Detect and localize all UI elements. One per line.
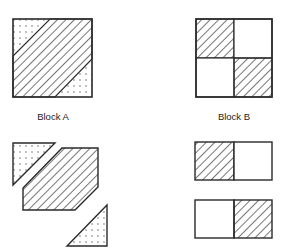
block-a-label: Block A — [37, 111, 69, 122]
block-b-label: Block B — [218, 111, 250, 122]
block-b-cell-bottom-left-plain — [196, 58, 234, 97]
block-b-piece-bottom-strip — [195, 200, 272, 238]
block-b-assembled — [196, 19, 272, 97]
block-b-cell-top-left-hatched — [196, 19, 234, 58]
block-b-exploded — [195, 142, 272, 238]
block-a-piece-dotted-triangle-bottom-right — [67, 205, 107, 246]
block-a-assembled — [13, 19, 92, 97]
block-b-cell-bottom-right-hatched — [234, 58, 272, 97]
quilt-diagram — [0, 0, 282, 251]
block-b-cell-top-right-plain — [234, 19, 272, 58]
block-b-piece-top-strip — [195, 142, 272, 180]
block-a-exploded — [13, 143, 107, 246]
